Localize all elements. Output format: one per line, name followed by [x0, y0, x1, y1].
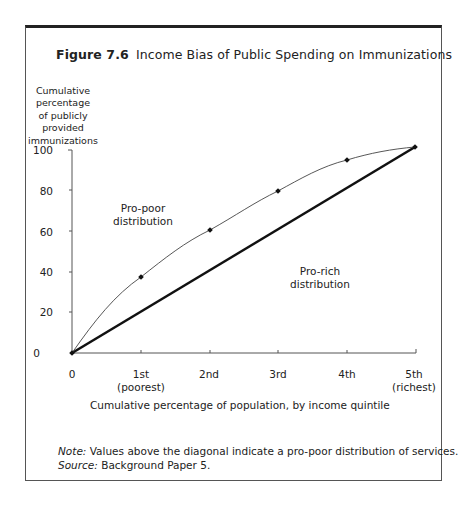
x-tick-label: 3rd	[248, 368, 308, 381]
annotation-line: Pro-poor	[106, 202, 180, 215]
x-tick-line: 5th	[384, 368, 444, 381]
x-tick-line: 3rd	[248, 368, 308, 381]
plot-area	[0, 0, 464, 510]
note-line: Note: Values above the diagonal indicate…	[58, 444, 458, 458]
x-tick-line: 0	[42, 368, 102, 381]
note-label: Note:	[58, 445, 86, 457]
annotation-line: distribution	[106, 215, 180, 228]
x-tick-label: 0	[42, 368, 102, 381]
source-line: Source: Background Paper 5.	[58, 458, 458, 472]
x-tick-line: (richest)	[384, 381, 444, 394]
source-label: Source:	[58, 459, 98, 471]
x-tick-label: 1st(poorest)	[111, 368, 171, 393]
source-text: Background Paper 5.	[98, 459, 210, 471]
x-tick-line: 1st	[111, 368, 171, 381]
x-axis-label: Cumulative percentage of population, by …	[90, 399, 390, 411]
x-tick-label: 2nd	[179, 368, 239, 381]
annotation-line: Pro-rich	[283, 265, 357, 278]
x-tick-line: 2nd	[179, 368, 239, 381]
pro-poor-annotation: Pro-poor distribution	[106, 202, 180, 227]
pro-rich-annotation: Pro-rich distribution	[283, 265, 357, 290]
x-tick-label: 5th(richest)	[384, 368, 444, 393]
x-tick-label: 4th	[317, 368, 377, 381]
equality-diagonal	[72, 147, 415, 353]
annotation-line: distribution	[283, 278, 357, 291]
x-tick-line: (poorest)	[111, 381, 171, 394]
x-tick-line: 4th	[317, 368, 377, 381]
note-text: Values above the diagonal indicate a pro…	[86, 445, 458, 457]
figure-note: Note: Values above the diagonal indicate…	[58, 444, 458, 472]
